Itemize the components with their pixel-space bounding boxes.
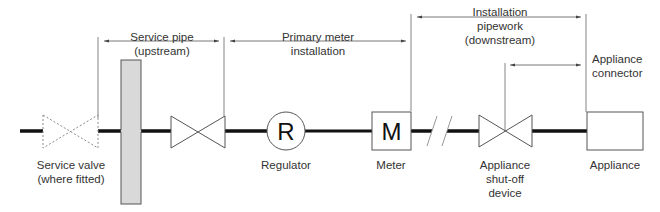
meter-symbol: M bbox=[382, 118, 402, 145]
label-line: shut-off bbox=[470, 172, 540, 186]
primary-meter-label: Primary meter installation bbox=[256, 30, 380, 58]
label-line: (where fitted) bbox=[26, 172, 116, 186]
label-line: Service valve bbox=[26, 158, 116, 172]
label-line: Primary meter bbox=[256, 30, 380, 44]
installation-pipework-label: Installation pipework (downstream) bbox=[450, 5, 550, 47]
label-line: Appliance bbox=[470, 158, 540, 172]
shutoff-valve-icon bbox=[479, 115, 532, 147]
regulator-icon: R bbox=[267, 112, 305, 150]
regulator-label: Regulator bbox=[250, 158, 322, 172]
regulator-symbol: R bbox=[277, 118, 294, 145]
label-line: (downstream) bbox=[450, 33, 550, 47]
service-pipe-label: Service pipe bbox=[110, 30, 214, 44]
label-line: connector bbox=[592, 66, 643, 80]
appliance-icon bbox=[587, 112, 643, 150]
label-line: device bbox=[470, 186, 540, 200]
service-pipe-sublabel: (upstream) bbox=[110, 44, 214, 58]
label-line: Service pipe bbox=[110, 30, 214, 44]
service-valve-label: Service valve (where fitted) bbox=[26, 158, 116, 186]
service-valve-icon bbox=[43, 115, 98, 148]
label-line: Meter bbox=[366, 158, 416, 172]
control-valve-icon bbox=[171, 116, 225, 148]
label-line: pipework bbox=[450, 19, 550, 33]
meter-icon: M bbox=[372, 112, 411, 150]
label-line: (upstream) bbox=[110, 44, 214, 58]
label-line: Regulator bbox=[250, 158, 322, 172]
label-line: Appliance bbox=[592, 52, 643, 66]
shutoff-device-label: Appliance shut-off device bbox=[470, 158, 540, 200]
label-line: installation bbox=[256, 44, 380, 58]
label-line: Installation bbox=[450, 5, 550, 19]
meter-label: Meter bbox=[366, 158, 416, 172]
appliance-label: Appliance bbox=[584, 158, 646, 172]
appliance-connector-label: Appliance connector bbox=[592, 52, 643, 80]
label-line: Appliance bbox=[584, 158, 646, 172]
